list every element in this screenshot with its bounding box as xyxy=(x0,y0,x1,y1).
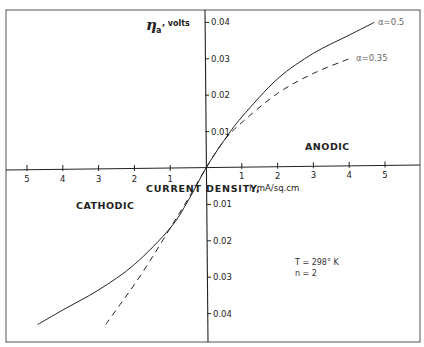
x-axis xyxy=(6,165,420,170)
y-tick-label: 0.01 xyxy=(211,127,230,137)
y-axis-label-unit: , volts xyxy=(162,19,190,28)
region-label-anodic: ANODIC xyxy=(305,141,350,152)
x-tick-label: 4 xyxy=(346,170,351,180)
x-tick-label: 1 xyxy=(239,171,244,181)
y-axis xyxy=(205,10,208,342)
series-label-alpha-0.5: α=0.5 xyxy=(378,17,404,27)
y-tick-label: 0.04 xyxy=(211,17,230,27)
y-tick-label: 0.03 xyxy=(213,272,232,282)
x-tick-label: 2 xyxy=(275,171,280,181)
chart: 54321123450.040.030.020.010.010.020.030.… xyxy=(0,0,424,347)
y-tick-label: 0.02 xyxy=(211,90,230,100)
annotation-n: n = 2 xyxy=(295,269,317,278)
region-label-cathodic: CATHODIC xyxy=(76,200,135,211)
x-tick-label: 4 xyxy=(60,174,65,184)
x-tick-label: 3 xyxy=(96,174,101,184)
y-tick-label: 0.02 xyxy=(213,236,232,246)
y-axis-label-subscript: a xyxy=(156,26,161,35)
series-label-alpha-0.35: α=0.35 xyxy=(356,53,388,63)
x-tick-label: 5 xyxy=(382,170,387,180)
annotation-temperature: T = 298° K xyxy=(294,258,339,267)
x-axis-unit-label: i, mA/sq.cm xyxy=(249,183,299,193)
y-axis-label: η a , volts xyxy=(146,16,190,35)
y-tick-label: 0.04 xyxy=(213,309,232,319)
x-tick-label: 2 xyxy=(132,174,137,184)
x-tick-label: 3 xyxy=(311,170,316,180)
y-tick-label: 0.03 xyxy=(211,54,230,64)
x-axis-label: CURRENT DENSITY, xyxy=(146,183,260,194)
y-tick-label: 0.01 xyxy=(213,199,232,209)
x-tick-label: 5 xyxy=(24,174,29,184)
